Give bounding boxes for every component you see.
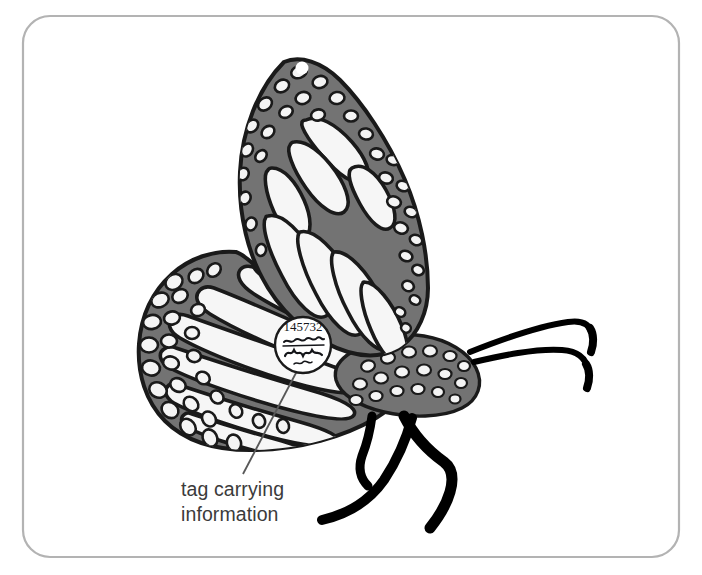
- butterfly-wing-tag: 145732: [275, 317, 331, 373]
- tag-handwriting-strike: [283, 345, 324, 346]
- butterfly-illustration: 145732 tag carrying information: [0, 0, 702, 575]
- antenna-lower-club: [586, 364, 589, 388]
- antenna-upper-club: [590, 328, 593, 352]
- caption-line-1: tag carrying: [181, 478, 284, 500]
- tag-number: 145732: [284, 319, 323, 334]
- apex-highlight-spot: [296, 62, 309, 75]
- figure-canvas: 145732 tag carrying information: [0, 0, 702, 575]
- caption-line-2: information: [181, 503, 279, 525]
